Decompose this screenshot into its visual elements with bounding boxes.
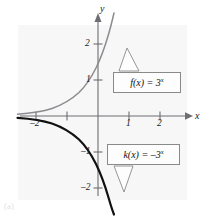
- k-callout-leader: [114, 166, 133, 192]
- f-function-callout: f(x) = 3x: [113, 72, 181, 93]
- f-function-label: f(x) = 3x: [130, 78, 164, 88]
- y-tick-label-1: 1: [86, 75, 91, 85]
- k-function-label-exponent: x: [161, 147, 164, 154]
- figure-caption-partial: (a): [4, 202, 14, 210]
- curve-f-of-x: [18, 13, 115, 114]
- x-axis: [20, 112, 193, 119]
- exponential-function-figure: –2 1 2 2 1 –1 –2 x y f(x) = 3x k(x) = –3…: [0, 0, 213, 217]
- f-function-label-exponent: x: [161, 75, 164, 82]
- x-axis-label: x: [195, 111, 199, 121]
- y-tick-label-neg1: –1: [81, 147, 91, 157]
- x-tick-label-2: 2: [157, 119, 162, 129]
- f-callout-leader: [119, 48, 139, 71]
- graph-canvas: [0, 0, 213, 217]
- f-function-label-base: f(x) = 3: [130, 77, 161, 88]
- y-tick-label-2: 2: [85, 39, 90, 49]
- k-function-label: k(x) = –3x: [123, 150, 163, 160]
- curve-k-of-x: [18, 118, 115, 215]
- k-function-label-base: k(x) = –3: [123, 149, 160, 160]
- y-tick-label-neg2: –2: [81, 183, 91, 193]
- k-function-callout: k(x) = –3x: [107, 144, 180, 165]
- x-tick-label-1: 1: [126, 119, 131, 129]
- x-tick-label-neg2: –2: [30, 119, 40, 129]
- y-axis-label: y: [100, 4, 104, 14]
